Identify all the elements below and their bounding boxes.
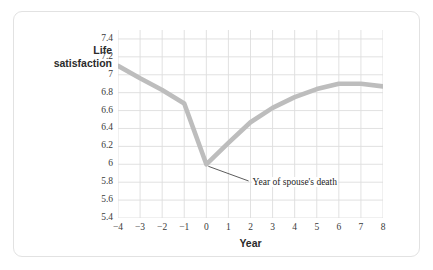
x-axis-tick-label: 8: [372, 222, 394, 232]
x-axis-tick-label: 0: [195, 222, 217, 232]
x-axis-tick-label: 5: [306, 222, 328, 232]
y-axis-tick-label: 6.2: [87, 140, 113, 150]
y-axis-tick-label: 5.8: [87, 176, 113, 186]
x-axis-tick-label: −1: [173, 222, 195, 232]
y-axis-tick-label: 6.6: [87, 105, 113, 115]
x-axis-tick-label: 1: [217, 222, 239, 232]
line-chart-svg: [118, 30, 383, 218]
x-axis-tick-label: −2: [151, 222, 173, 232]
y-axis-tick-label: 7.4: [87, 33, 113, 43]
y-axis-tick-label: 5.4: [87, 212, 113, 222]
y-axis-tick-label: 6.4: [87, 122, 113, 132]
x-axis-tick-label: −4: [107, 222, 129, 232]
x-axis-tick-label: 7: [350, 222, 372, 232]
y-axis-tick-label: 7: [87, 69, 113, 79]
y-axis-tick-label: 7.2: [87, 51, 113, 61]
plot-area: [118, 30, 383, 218]
x-axis-tick-label: 4: [284, 222, 306, 232]
chart-figure: Life satisfaction Year 5.45.65.866.26.46…: [0, 0, 433, 270]
annotation-spouse-death: Year of spouse's death: [252, 177, 338, 187]
x-axis-tick-label: 3: [262, 222, 284, 232]
y-axis-tick-label: 6: [87, 158, 113, 168]
x-axis-tick-label: 2: [240, 222, 262, 232]
y-axis-tick-label: 5.6: [87, 194, 113, 204]
x-axis-tick-label: −3: [129, 222, 151, 232]
x-axis-label: Year: [118, 237, 383, 249]
y-axis-tick-label: 6.8: [87, 87, 113, 97]
x-axis-tick-label: 6: [328, 222, 350, 232]
